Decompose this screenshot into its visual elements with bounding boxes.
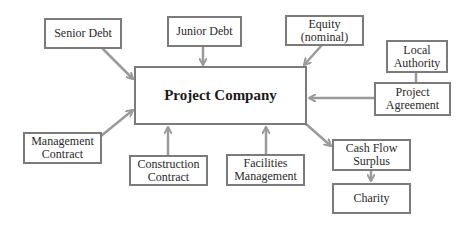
project-agreement-box[interactable]: Project Agreement: [374, 82, 451, 116]
construction-contract-box[interactable]: Construction Contract: [129, 155, 208, 186]
senior-debt-box[interactable]: Senior Debt: [44, 18, 122, 49]
cash-flow-surplus-box[interactable]: Cash Flow Surplus: [332, 139, 411, 171]
facilities-management-label: Facilities Management: [234, 157, 297, 183]
construction-contract-label: Construction Contract: [138, 158, 200, 184]
cash-flow-surplus-label: Cash Flow Surplus: [346, 142, 398, 168]
arrow-cash-flow: [306, 124, 331, 146]
junior-debt-label: Junior Debt: [176, 25, 232, 38]
arrow-management-contract: [101, 110, 133, 136]
senior-debt-label: Senior Debt: [54, 27, 112, 40]
arrow-equity: [304, 45, 322, 65]
project-company-label: Project Company: [164, 89, 277, 102]
equity-label: Equity (nominal): [301, 18, 348, 44]
project-agreement-label: Project Agreement: [386, 86, 439, 112]
diagram-canvas: Project Company Senior Debt Junior Debt …: [0, 0, 470, 226]
junior-debt-box[interactable]: Junior Debt: [167, 16, 242, 47]
charity-label: Charity: [354, 192, 390, 205]
charity-box[interactable]: Charity: [332, 183, 411, 214]
facilities-management-box[interactable]: Facilities Management: [226, 154, 305, 186]
management-contract-box[interactable]: Management Contract: [23, 132, 102, 164]
management-contract-label: Management Contract: [31, 135, 94, 161]
arrow-senior-debt: [102, 48, 133, 79]
local-authority-label: Local Authority: [394, 44, 441, 70]
local-authority-box[interactable]: Local Authority: [386, 40, 448, 73]
project-company-box[interactable]: Project Company: [134, 66, 307, 125]
equity-box[interactable]: Equity (nominal): [285, 15, 364, 46]
